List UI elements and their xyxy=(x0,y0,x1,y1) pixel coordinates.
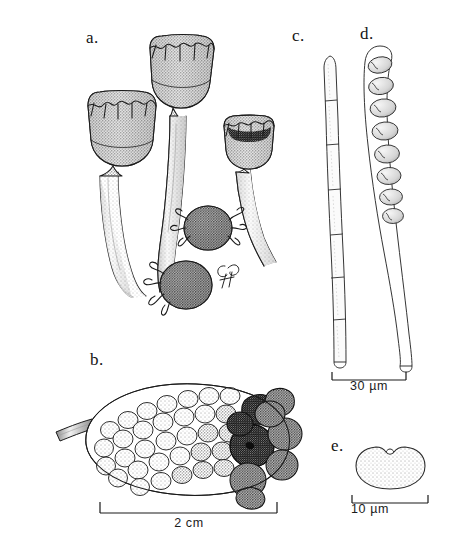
panel-label-d: d. xyxy=(360,24,374,44)
panel-a-artwork xyxy=(88,35,276,316)
apothecium-left xyxy=(88,91,156,299)
panel-c-artwork xyxy=(324,56,346,368)
apothecium-right xyxy=(224,115,276,266)
illustration-plate: a. b. c. d. e. 2 cm 30 µm 10 µm xyxy=(0,0,451,556)
panel-e-artwork xyxy=(352,447,428,503)
panel-label-b: b. xyxy=(90,350,104,370)
sclerotium-upper xyxy=(171,206,247,250)
panel-b-artwork xyxy=(56,384,302,513)
panel-label-c: c. xyxy=(292,26,305,46)
plate-artwork xyxy=(0,0,451,556)
scale-caption-2cm: 2 cm xyxy=(100,516,278,530)
panel-label-a: a. xyxy=(86,28,99,48)
scale-caption-30um: 30 µm xyxy=(330,379,408,393)
apothecium-center xyxy=(150,35,214,293)
sclerotium-lower xyxy=(144,261,212,315)
artist-signature xyxy=(218,265,239,288)
panel-label-e: e. xyxy=(331,436,344,456)
scale-caption-10um: 10 µm xyxy=(331,502,409,516)
